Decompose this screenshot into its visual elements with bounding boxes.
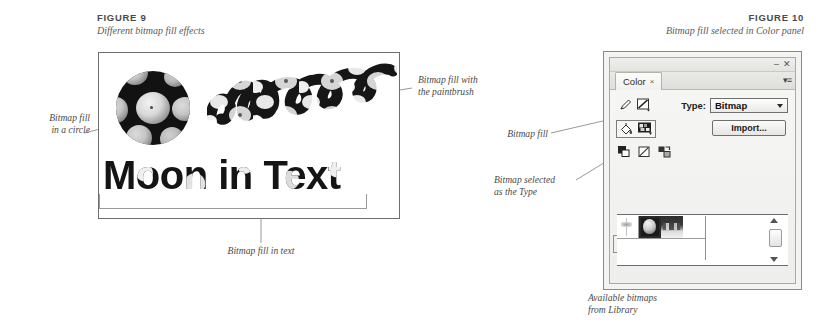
callout-line: the paintbrush <box>418 86 478 98</box>
panel-body: Type: Bitmap Import... <box>610 90 795 284</box>
color-modifier-tools <box>618 144 673 158</box>
paint-bucket-icon[interactable] <box>619 122 634 136</box>
stroke-swatch-icon[interactable] <box>636 98 651 112</box>
fill-type-row: Type: Bitmap <box>681 98 788 113</box>
callout-line: Bitmap fill <box>468 128 548 140</box>
default-colors-icon[interactable] <box>618 144 633 158</box>
bitmap-swatch-landscape[interactable] <box>661 216 683 238</box>
figure10-caption: Bitmap fill selected in Color panel <box>666 24 804 37</box>
panel-tab-strip: Color × ▾≡ <box>610 72 795 90</box>
figure9-artwork: Moon in Text <box>98 52 400 219</box>
callout-available-bitmaps-from-library: Available bitmaps from Library <box>588 292 657 316</box>
figure9-caption: Different bitmap fill effects <box>97 24 205 37</box>
minimize-icon[interactable]: – <box>774 60 779 69</box>
tab-close-icon[interactable]: × <box>650 73 655 90</box>
bitmap-swatch-empty-row <box>617 238 705 260</box>
callout-line: in a circle <box>8 124 90 136</box>
available-bitmaps-area <box>617 214 788 266</box>
callout-bitmap-fill-tool: Bitmap fill <box>468 128 548 140</box>
crater-right <box>172 97 190 121</box>
callout-bitmap-fill-in-a-circle: Bitmap fill in a circle <box>8 112 90 136</box>
crater-left <box>116 97 128 123</box>
callout-line: Bitmap fill in text <box>205 245 317 257</box>
close-icon[interactable]: ✕ <box>783 60 791 69</box>
callout-line: from Library <box>588 304 657 316</box>
panel-options-menu-icon[interactable]: ▾≡ <box>783 75 791 85</box>
no-color-icon[interactable] <box>638 144 653 158</box>
callout-line: Bitmap selected <box>494 174 555 186</box>
pencil-icon[interactable] <box>618 98 633 112</box>
bitmap-filled-script-moon <box>207 59 397 137</box>
type-dropdown-value: Bitmap <box>715 100 747 111</box>
tab-color-label: Color <box>623 73 646 90</box>
figure9-heading: FIGURE 9 Different bitmap fill effects <box>97 12 205 37</box>
panel-titlebar: – ✕ <box>610 58 795 72</box>
scroll-up-arrow-icon[interactable] <box>770 218 778 223</box>
crater-top-right <box>164 71 186 87</box>
figure10-number: FIGURE 10 <box>666 12 804 24</box>
swap-colors-icon[interactable] <box>658 144 673 158</box>
scrollbar-thumb[interactable] <box>769 229 782 247</box>
bitmap-filled-circle <box>116 71 190 145</box>
callout-bitmap-selected-as-the-type: Bitmap selected as the Type <box>494 174 555 198</box>
callout-bitmap-fill-in-text: Bitmap fill in text <box>205 245 317 257</box>
crater-center <box>136 92 170 124</box>
import-button[interactable]: Import... <box>712 120 786 136</box>
scroll-down-arrow-icon[interactable] <box>770 257 778 262</box>
bitmap-fill-swatch-icon[interactable] <box>638 122 653 136</box>
callout-line: Bitmap fill <box>8 112 90 124</box>
text-selection-bracket <box>99 194 367 209</box>
page-canvas: FIGURE 9 Different bitmap fill effects <box>0 0 821 334</box>
callout-line: Available bitmaps <box>588 292 657 304</box>
callout-line: Bitmap fill with <box>418 74 478 86</box>
type-label: Type: <box>681 100 706 111</box>
figure10-heading: FIGURE 10 Bitmap fill selected in Color … <box>666 12 804 37</box>
fill-color-tools <box>616 120 656 138</box>
callout-line: as the Type <box>494 186 555 198</box>
stroke-color-tools <box>618 98 651 112</box>
bitmap-swatch-moon-selected[interactable] <box>639 216 661 238</box>
figure9-number: FIGURE 9 <box>97 12 205 24</box>
bitmap-list-scrollbar[interactable] <box>769 217 782 263</box>
crater-bottom-left <box>126 125 152 145</box>
callout-bitmap-fill-with-the-paintbrush: Bitmap fill with the paintbrush <box>418 74 478 98</box>
color-panel: – ✕ Color × ▾≡ <box>609 57 796 284</box>
bitmap-filled-text: Moon in Text <box>103 153 399 197</box>
tab-color[interactable]: Color × <box>615 72 662 90</box>
chevron-down-icon <box>777 104 783 108</box>
color-panel-frame: – ✕ Color × ▾≡ <box>603 51 802 290</box>
bitmap-swatch-blank[interactable] <box>617 216 639 238</box>
type-dropdown[interactable]: Bitmap <box>710 98 788 113</box>
crater-top-left <box>122 71 148 85</box>
crater-bottom-right <box>160 127 184 145</box>
